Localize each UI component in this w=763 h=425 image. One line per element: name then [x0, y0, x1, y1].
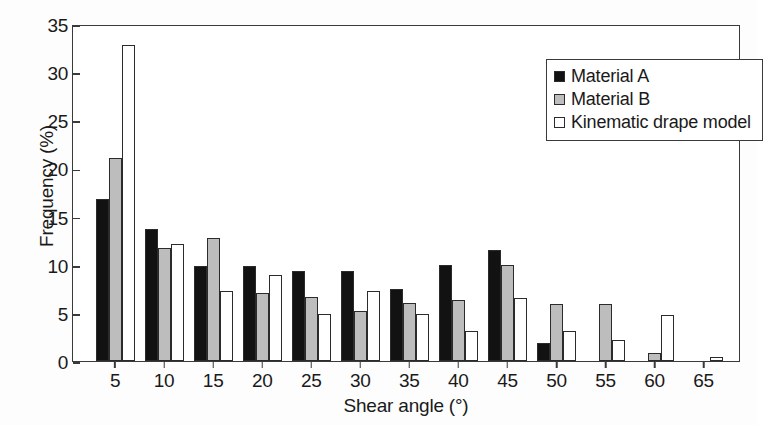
y-axis-tick: 35 — [47, 15, 73, 37]
bar-material-a-25 — [292, 271, 305, 361]
x-axis-tick-label: 50 — [546, 370, 567, 392]
bar-material-a-35 — [390, 289, 403, 361]
bar-material-b-20 — [256, 293, 269, 361]
x-axis-tick-label: 65 — [693, 370, 714, 392]
x-axis-tick-mark — [212, 361, 214, 368]
bar-material-a-50 — [537, 343, 550, 361]
y-axis-tick-mark — [73, 362, 80, 364]
x-axis-title: Shear angle (°) — [72, 395, 740, 417]
legend-item: Material A — [554, 65, 751, 88]
bar-kinematic-drape-model-15 — [220, 291, 233, 361]
legend-item-label: Kinematic drape model — [571, 112, 751, 133]
y-axis-tick: 5 — [58, 304, 73, 326]
y-axis-tick: 20 — [47, 159, 73, 181]
bar-material-b-50 — [550, 304, 563, 361]
x-axis-tick-label: 55 — [595, 370, 616, 392]
bar-material-b-40 — [452, 300, 465, 361]
x-axis-tick-mark — [654, 361, 656, 368]
y-axis-tick: 25 — [47, 111, 73, 133]
bar-kinematic-drape-model-10 — [171, 244, 184, 361]
x-axis-tick: 20 — [252, 361, 273, 392]
x-axis-tick: 5 — [110, 361, 120, 392]
y-axis-tick-label: 20 — [47, 159, 73, 181]
y-axis-tick-label: 35 — [47, 15, 73, 37]
bar-kinematic-drape-model-65 — [710, 357, 723, 361]
x-axis-tick-mark — [359, 361, 361, 368]
bar-kinematic-drape-model-60 — [661, 315, 674, 361]
bar-kinematic-drape-model-35 — [416, 314, 429, 361]
bar-material-b-15 — [207, 238, 220, 361]
x-axis-tick-label: 5 — [110, 370, 120, 392]
x-axis-tick-mark — [458, 361, 460, 368]
y-axis-tick-label: 10 — [47, 256, 73, 278]
x-axis-tick-mark — [261, 361, 263, 368]
y-axis-tick-label: 0 — [58, 352, 73, 374]
x-axis-tick-label: 20 — [252, 370, 273, 392]
bar-material-a-20 — [243, 266, 256, 361]
y-axis-tick-label: 30 — [47, 63, 73, 85]
x-axis-tick-mark — [409, 361, 411, 368]
bar-material-b-30 — [354, 311, 367, 361]
y-axis-tick: 0 — [58, 352, 73, 374]
bar-material-b-45 — [501, 265, 514, 361]
bar-material-b-10 — [158, 248, 171, 361]
x-axis-tick-label: 60 — [644, 370, 665, 392]
x-axis-tick: 55 — [595, 361, 616, 392]
gray-square-icon — [554, 94, 565, 105]
x-axis-tick: 35 — [399, 361, 420, 392]
bar-kinematic-drape-model-5 — [122, 45, 135, 361]
bar-material-b-5 — [109, 158, 122, 361]
bar-material-a-40 — [439, 265, 452, 361]
x-axis-tick-label: 40 — [448, 370, 469, 392]
legend-item-label: Material B — [571, 89, 650, 110]
y-axis-tick-label: 25 — [47, 111, 73, 133]
y-axis-tick: 30 — [47, 63, 73, 85]
x-axis-tick-label: 10 — [154, 370, 175, 392]
bar-material-a-5 — [96, 199, 109, 361]
x-axis-tick-label: 35 — [399, 370, 420, 392]
bar-kinematic-drape-model-45 — [514, 298, 527, 361]
white-square-icon — [554, 117, 565, 128]
y-axis-tick: 15 — [47, 208, 73, 230]
bar-kinematic-drape-model-55 — [612, 340, 625, 361]
x-axis-tick-label: 25 — [301, 370, 322, 392]
x-axis-tick: 30 — [350, 361, 371, 392]
chart-legend: Material AMaterial BKinematic drape mode… — [546, 59, 763, 141]
x-axis-tick: 50 — [546, 361, 567, 392]
legend-item: Material B — [554, 88, 751, 111]
x-axis-tick: 65 — [693, 361, 714, 392]
x-axis-tick: 15 — [203, 361, 224, 392]
bar-material-b-60 — [648, 353, 661, 361]
y-axis-tick-label: 15 — [47, 208, 73, 230]
bar-material-b-25 — [305, 297, 318, 362]
bar-material-a-45 — [488, 250, 501, 361]
x-axis-tick-mark — [703, 361, 705, 368]
legend-item: Kinematic drape model — [554, 111, 751, 134]
x-axis-tick: 45 — [497, 361, 518, 392]
x-axis-tick: 40 — [448, 361, 469, 392]
legend-item-label: Material A — [571, 66, 649, 87]
x-axis-tick: 25 — [301, 361, 322, 392]
black-square-icon — [554, 71, 565, 82]
bar-kinematic-drape-model-20 — [269, 275, 282, 361]
y-axis-tick-label: 5 — [58, 304, 73, 326]
x-axis-tick-mark — [163, 361, 165, 368]
x-axis-tick-mark — [605, 361, 607, 368]
x-axis-tick-mark — [114, 361, 116, 368]
x-axis-tick-label: 45 — [497, 370, 518, 392]
x-axis-tick: 10 — [154, 361, 175, 392]
bar-kinematic-drape-model-30 — [367, 291, 380, 361]
bar-kinematic-drape-model-25 — [318, 314, 331, 361]
bar-material-a-15 — [194, 266, 207, 361]
bar-material-b-55 — [599, 304, 612, 361]
x-axis-tick-mark — [507, 361, 509, 368]
x-axis-tick-mark — [310, 361, 312, 368]
x-axis-tick-label: 30 — [350, 370, 371, 392]
x-axis-tick-mark — [556, 361, 558, 368]
x-axis-tick-label: 15 — [203, 370, 224, 392]
bar-material-b-35 — [403, 303, 416, 361]
bar-material-a-10 — [145, 229, 158, 361]
y-axis-tick: 10 — [47, 256, 73, 278]
bar-material-a-30 — [341, 271, 354, 361]
